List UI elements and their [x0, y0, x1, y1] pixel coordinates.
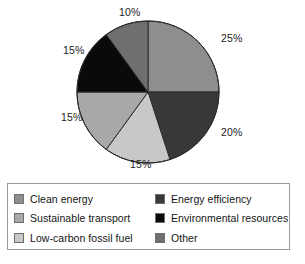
legend-item-sustainable-transport[interactable]: Sustainable transport	[14, 209, 162, 228]
legend-label-energy-efficiency: Energy efficiency	[171, 193, 252, 205]
legend-swatch-other	[155, 233, 165, 243]
data-label-energy-efficiency: 20%	[221, 126, 242, 138]
legend-column-left: Clean energySustainable transportLow-car…	[14, 189, 162, 248]
legend-item-low-carbon-fossil-fuel[interactable]: Low-carbon fossil fuel	[14, 228, 162, 247]
data-label-clean-energy: 25%	[221, 32, 242, 44]
pie-chart-plot-area: 25% 20% 15% 15% 15% 10%	[0, 0, 305, 180]
pie-slice-group	[77, 21, 219, 163]
legend-item-clean-energy[interactable]: Clean energy	[14, 189, 162, 208]
data-label-environmental-resources: 15%	[63, 44, 84, 56]
legend-column-right: Energy efficiencyEnvironmental resources…	[155, 189, 295, 248]
legend-swatch-environmental-resources	[155, 213, 165, 223]
legend-swatch-sustainable-transport	[14, 213, 24, 223]
legend-item-other[interactable]: Other	[155, 228, 295, 247]
pie-chart-svg	[0, 0, 305, 180]
pie-slice-clean-energy[interactable]	[148, 21, 219, 92]
data-label-low-carbon-fossil-fuel: 15%	[130, 158, 151, 170]
legend-swatch-low-carbon-fossil-fuel	[14, 233, 24, 243]
legend-label-clean-energy: Clean energy	[30, 193, 93, 205]
legend-swatch-energy-efficiency	[155, 194, 165, 204]
legend-swatch-clean-energy	[14, 194, 24, 204]
data-label-sustainable-transport: 15%	[61, 111, 82, 123]
legend-item-energy-efficiency[interactable]: Energy efficiency	[155, 189, 295, 208]
legend-label-low-carbon-fossil-fuel: Low-carbon fossil fuel	[30, 232, 133, 244]
legend-label-other: Other	[171, 232, 198, 244]
chart-legend: Clean energySustainable transportLow-car…	[7, 183, 290, 250]
legend-label-environmental-resources: Environmental resources	[171, 212, 288, 224]
legend-label-sustainable-transport: Sustainable transport	[30, 212, 130, 224]
data-label-other: 10%	[119, 6, 140, 18]
legend-item-environmental-resources[interactable]: Environmental resources	[155, 209, 295, 228]
pie-chart-figure: 25% 20% 15% 15% 15% 10% Clean energySust…	[0, 0, 305, 264]
